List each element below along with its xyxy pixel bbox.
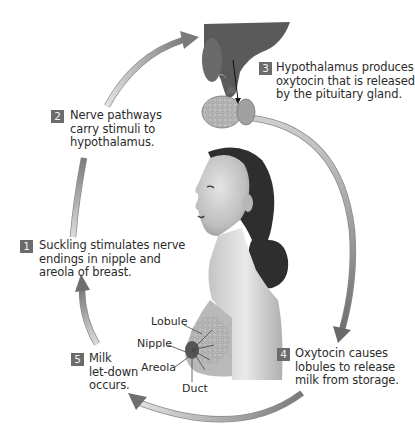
arrow-to-suckling [75,274,97,344]
woman-profile-illustration [185,148,288,381]
label-areola: Areola [141,362,176,374]
step-number-badge: 4 [277,348,290,361]
step-number-badge: 3 [259,62,272,75]
step-1-line-3: areola of breast. [39,266,185,280]
step-5-line-2: let-down [89,366,138,380]
arrow-to-hypothalamus [107,31,199,106]
label-duct: Duct [182,383,208,395]
step-5-line-1: Milk [89,352,138,366]
step-3-line-3: by the pituitary gland. [276,88,415,102]
label-lobule: Lobule [151,316,187,328]
step-number-badge: 1 [20,240,33,253]
step-2-line-1: Nerve pathways [70,109,162,123]
step-3-line-1: Hypothalamus produces [276,61,415,75]
step-2-line-2: carry stimuli to [70,123,162,137]
step-3-line-2: oxytocin that is released [276,75,415,89]
step-4-line-2: lobules to release [295,361,399,375]
step-4-line-3: milk from storage. [295,374,399,388]
step-4-line-1: Oxytocin causes [295,347,399,361]
arrow-to-nerve-pathways [73,158,84,237]
arrow-to-milk-letdown [128,393,302,419]
step-1-line-1: Suckling stimulates nerve [39,239,185,253]
step-5-line-3: occurs. [89,379,138,393]
step-number-badge: 5 [71,353,84,366]
step-number-badge: 2 [51,110,64,123]
label-nipple: Nipple [137,338,172,350]
step-2-line-3: hypothalamus. [70,136,162,150]
step-1-line-2: endings in nipple and [39,253,185,267]
